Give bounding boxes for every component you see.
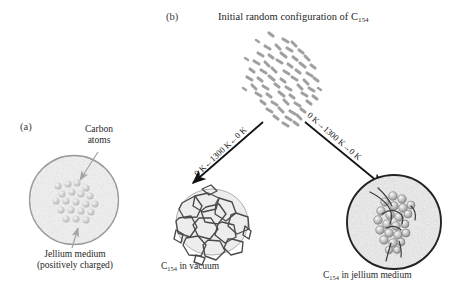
vacuum-caption-suffix: in vacuum	[177, 261, 219, 271]
carbon-atoms-line1: Carbon	[60, 124, 138, 135]
jellium-medium-caption: Jellium medium (positively charged)	[4, 249, 146, 270]
jellium-medium-arrow	[72, 228, 78, 248]
c154-vacuum-cage	[174, 185, 251, 265]
jellium-sphere-border	[30, 156, 119, 245]
jellium-sphere-fill	[30, 156, 119, 245]
panel-b-title-subscript: 154	[358, 16, 369, 24]
carbon-atoms-line2: atoms	[60, 135, 138, 146]
jellium-cage-cluster	[370, 188, 416, 261]
right-transformation-arrow	[305, 122, 383, 186]
right-arrow-label: 0 K→1300 K→0 K	[305, 110, 363, 162]
jellium-caption-line2: (positively charged)	[4, 260, 146, 271]
jellium-sphere-a	[30, 152, 119, 248]
c154-jellium-result	[347, 175, 441, 269]
jellium-result-fill	[347, 175, 441, 269]
carbon-atoms-arrow	[80, 152, 98, 180]
panel-b-title: Initial random configuration of C154	[218, 11, 369, 24]
jellium-result-border	[347, 175, 441, 269]
figure-canvas: (a) Carbon atoms Jellium medium (positiv…	[0, 0, 465, 295]
jellium-result-suffix: in jellium medium	[339, 270, 412, 280]
left-arrow-label: 0 K←1300 K←0 K	[192, 125, 249, 179]
panel-a-label: (a)	[20, 121, 32, 133]
vacuum-caption: C154 in vacuum	[161, 261, 219, 272]
vacuum-caption-subscript: 154	[167, 265, 177, 272]
jellium-medium-result-caption: C154 in jellium medium	[323, 270, 412, 281]
jellium-result-subscript: 154	[329, 274, 339, 281]
carbon-atom-group	[53, 180, 99, 224]
jellium-caption-line1: Jellium medium	[4, 249, 146, 260]
panel-b-label: (b)	[166, 11, 178, 23]
carbon-atoms-annotation: Carbon atoms	[60, 124, 138, 145]
panel-b-title-text: Initial random configuration of C	[218, 11, 358, 22]
